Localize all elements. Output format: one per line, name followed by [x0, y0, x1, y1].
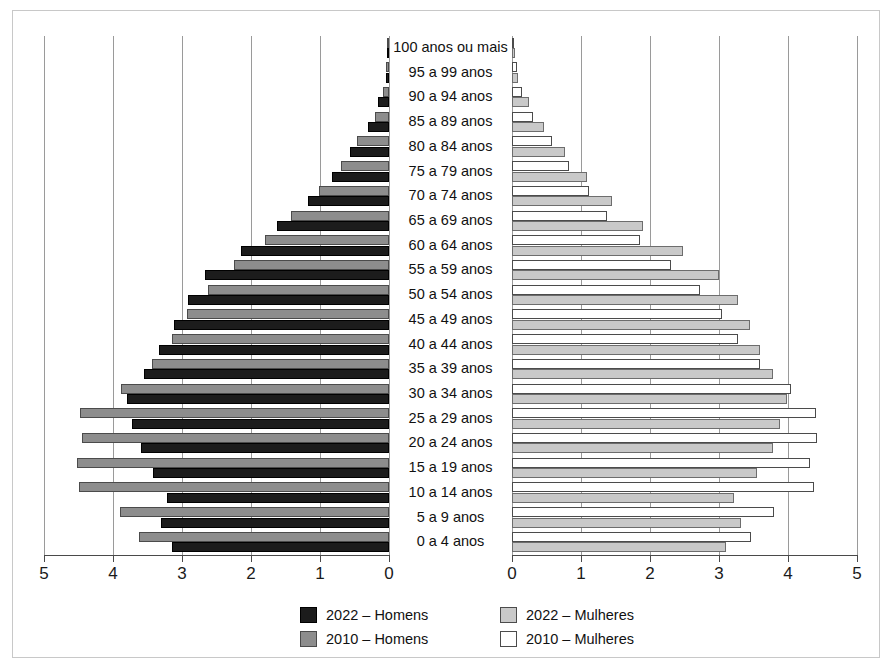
bar-2022-men: [127, 394, 389, 404]
legend-item[interactable]: 2010 – Homens: [300, 631, 428, 647]
bar-2022-women: [512, 345, 760, 355]
bar-2022-men: [167, 493, 389, 503]
legend-item[interactable]: 2010 – Mulheres: [500, 631, 634, 647]
bar-2010-men: [139, 532, 389, 542]
bar-2022-men: [350, 147, 389, 157]
bar-2010-women: [512, 359, 760, 369]
bar-2010-men: [82, 433, 389, 443]
bar-2022-women: [512, 73, 518, 83]
bar-2022-men: [378, 97, 389, 107]
men-axis-tick: [389, 555, 390, 562]
age-group-label: 35 a 39 anos: [389, 360, 512, 376]
age-group-label: 45 a 49 anos: [389, 311, 512, 327]
women-axis-tick: [788, 555, 789, 562]
bar-2022-women: [512, 196, 612, 206]
bar-2022-men: [174, 320, 389, 330]
population-pyramid-figure: 543210 012345 100 anos ou mais95 a 99 an…: [0, 0, 895, 672]
bar-2010-women: [512, 507, 774, 517]
men-gridline: [113, 36, 114, 555]
bar-2022-women: [512, 172, 587, 182]
bar-2010-women: [512, 161, 569, 171]
bar-2022-women: [512, 394, 787, 404]
bar-2022-men: [205, 270, 389, 280]
age-group-label: 5 a 9 anos: [389, 509, 512, 525]
bar-2022-men: [144, 369, 389, 379]
men-axis-tick: [320, 555, 321, 562]
age-group-label: 65 a 69 anos: [389, 212, 512, 228]
women-axis-tick-label: 3: [704, 564, 734, 584]
age-group-label: 80 a 84 anos: [389, 138, 512, 154]
bar-2010-women: [512, 260, 671, 270]
bar-2022-women: [512, 97, 529, 107]
bar-2022-women: [512, 221, 643, 231]
men-axis-tick-label: 1: [305, 564, 335, 584]
men-axis-tick-label: 3: [167, 564, 197, 584]
bar-2010-men: [79, 482, 390, 492]
bar-2010-men: [357, 136, 389, 146]
bar-2022-women: [512, 320, 750, 330]
men-axis-tick-label: 4: [98, 564, 128, 584]
bar-2010-women: [512, 482, 814, 492]
women-axis-tick-label: 4: [773, 564, 803, 584]
bar-2010-women: [512, 384, 791, 394]
bar-2010-women: [512, 62, 517, 72]
bar-2010-men: [172, 334, 389, 344]
bar-2022-women: [512, 419, 780, 429]
bar-2010-men: [375, 112, 389, 122]
age-group-label-column: 100 anos ou mais95 a 99 anos90 a 94 anos…: [389, 36, 512, 555]
legend-label: 2022 – Homens: [326, 607, 428, 623]
bar-2010-women: [512, 87, 522, 97]
women-axis-tick-label: 1: [566, 564, 596, 584]
bar-2010-men: [187, 309, 389, 319]
age-group-label: 30 a 34 anos: [389, 385, 512, 401]
age-group-label: 75 a 79 anos: [389, 163, 512, 179]
bar-2022-men: [159, 345, 389, 355]
women-axis-tick: [857, 555, 858, 562]
bar-2010-men: [341, 161, 389, 171]
age-group-label: 100 anos ou mais: [389, 39, 512, 55]
bar-2010-women: [512, 136, 552, 146]
bar-2022-men: [332, 172, 389, 182]
bar-2022-women: [512, 48, 515, 58]
women-axis-tick-label: 2: [635, 564, 665, 584]
bar-2010-men: [234, 260, 389, 270]
age-group-label: 0 a 4 anos: [389, 533, 512, 549]
bar-2010-women: [512, 211, 607, 221]
bar-2022-men: [141, 443, 389, 453]
bar-2010-men: [291, 211, 389, 221]
men-axis-tick-label: 5: [29, 564, 59, 584]
legend-label: 2022 – Mulheres: [526, 607, 634, 623]
bar-2010-women: [512, 186, 589, 196]
bar-2010-men: [77, 458, 389, 468]
bar-2010-women: [512, 38, 514, 48]
bar-2010-women: [512, 309, 722, 319]
women-axis-line: [512, 555, 857, 556]
bar-2022-men: [308, 196, 389, 206]
legend-swatch-icon: [300, 631, 317, 647]
bar-2022-men: [188, 295, 389, 305]
men-axis-tick-label: 2: [236, 564, 266, 584]
age-group-label: 60 a 64 anos: [389, 237, 512, 253]
men-gridline: [44, 36, 45, 555]
bar-2010-women: [512, 112, 533, 122]
age-group-label: 70 a 74 anos: [389, 187, 512, 203]
bar-2010-women: [512, 532, 751, 542]
age-group-label: 85 a 89 anos: [389, 113, 512, 129]
bar-2010-men: [80, 408, 389, 418]
legend-swatch-icon: [500, 631, 517, 647]
age-group-label: 95 a 99 anos: [389, 64, 512, 80]
bar-2010-women: [512, 458, 810, 468]
men-axis-line: [44, 555, 389, 556]
bar-2022-women: [512, 542, 726, 552]
legend-swatch-icon: [300, 607, 317, 623]
bar-2022-women: [512, 443, 773, 453]
bar-2010-men: [265, 235, 389, 245]
legend-item[interactable]: 2022 – Mulheres: [500, 607, 634, 623]
bar-2010-women: [512, 285, 700, 295]
legend-swatch-icon: [500, 607, 517, 623]
age-group-label: 25 a 29 anos: [389, 410, 512, 426]
bar-2022-women: [512, 493, 734, 503]
bar-2022-women: [512, 295, 738, 305]
legend-item[interactable]: 2022 – Homens: [300, 607, 428, 623]
bar-2010-men: [152, 359, 389, 369]
